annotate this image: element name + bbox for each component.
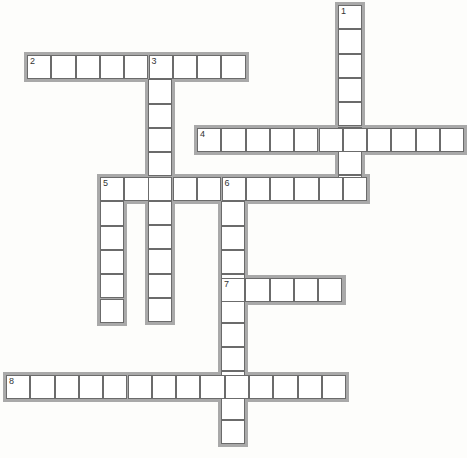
crossword-cell[interactable] (338, 54, 362, 78)
crossword-cell[interactable] (55, 375, 79, 399)
crossword-cell[interactable] (294, 278, 318, 302)
crossword-cell[interactable] (391, 128, 415, 152)
clue-number: 3 (152, 57, 157, 66)
crossword-cell[interactable] (51, 55, 75, 79)
crossword-cell[interactable] (270, 128, 294, 152)
crossword-cell[interactable] (148, 79, 172, 103)
crossword-cell[interactable] (221, 55, 245, 79)
crossword-cell[interactable] (298, 375, 322, 399)
crossword-cell[interactable] (221, 420, 245, 444)
clue-number: 7 (224, 280, 229, 289)
crossword-cell[interactable] (103, 375, 127, 399)
crossword-cell[interactable] (148, 298, 172, 322)
crossword-cell[interactable] (173, 177, 197, 201)
crossword-cell[interactable] (100, 299, 124, 323)
crossword-cell[interactable] (221, 323, 245, 347)
crossword-cell[interactable] (148, 225, 172, 249)
crossword-cell[interactable] (148, 249, 172, 273)
crossword-cell[interactable] (124, 55, 148, 79)
crossword-cell[interactable] (152, 375, 176, 399)
crossword-cell[interactable] (200, 375, 224, 399)
crossword-cell[interactable] (100, 250, 124, 274)
crossword-cell[interactable]: 2 (27, 55, 51, 79)
crossword-cell[interactable] (173, 55, 197, 79)
crossword-cell[interactable] (148, 128, 172, 152)
crossword-cell[interactable]: 6 (222, 177, 246, 201)
crossword-cell[interactable] (246, 177, 270, 201)
crossword-cell[interactable] (100, 55, 124, 79)
clue-number: 2 (30, 57, 35, 66)
crossword-cell[interactable] (338, 102, 362, 126)
crossword-cell[interactable] (148, 104, 172, 128)
crossword-cell[interactable] (270, 177, 294, 201)
crossword-cell[interactable] (221, 226, 245, 250)
crossword-cell[interactable] (221, 396, 245, 420)
crossword-cell[interactable] (319, 177, 343, 201)
crossword-cell[interactable] (128, 375, 152, 399)
crossword-cell[interactable]: 8 (6, 375, 30, 399)
crossword-cell[interactable] (367, 128, 391, 152)
crossword-cell[interactable] (440, 128, 464, 152)
crossword-cell[interactable] (318, 278, 342, 302)
crossword-cell[interactable] (148, 274, 172, 298)
crossword-cell[interactable] (100, 201, 124, 225)
crossword-cell[interactable] (343, 128, 367, 152)
crossword-cell[interactable] (249, 375, 273, 399)
crossword-cell[interactable] (294, 128, 318, 152)
crossword-cell[interactable] (416, 128, 440, 152)
crossword-cell[interactable] (221, 201, 245, 225)
crossword-cell[interactable] (246, 128, 270, 152)
crossword-cell[interactable] (245, 278, 269, 302)
crossword-cell[interactable] (221, 250, 245, 274)
crossword-cell[interactable] (294, 177, 318, 201)
crossword-cell[interactable] (148, 177, 172, 201)
crossword-cell[interactable]: 7 (221, 278, 245, 302)
crossword-cell[interactable] (76, 55, 100, 79)
crossword-cell[interactable]: 1 (338, 5, 362, 29)
crossword-cell[interactable]: 4 (197, 128, 221, 152)
crossword-cell[interactable] (148, 152, 172, 176)
crossword-cell[interactable] (343, 177, 367, 201)
crossword-cell[interactable] (176, 375, 200, 399)
crossword-cell[interactable] (100, 226, 124, 250)
crossword-cell[interactable] (338, 151, 362, 175)
clue-number: 4 (200, 130, 205, 139)
clue-number: 5 (103, 179, 108, 188)
crossword-cell[interactable] (225, 375, 249, 399)
crossword-cell[interactable] (148, 201, 172, 225)
crossword-cell[interactable] (221, 128, 245, 152)
clue-number: 6 (225, 179, 230, 188)
clue-number: 8 (9, 377, 14, 386)
crossword-cell[interactable]: 3 (149, 55, 173, 79)
crossword-cell[interactable] (221, 347, 245, 371)
crossword-cell[interactable] (124, 177, 148, 201)
crossword-cell[interactable] (197, 177, 221, 201)
crossword-cell[interactable]: 5 (100, 177, 124, 201)
clue-number: 1 (341, 7, 346, 16)
crossword-cell[interactable] (100, 274, 124, 298)
crossword-cell[interactable] (270, 278, 294, 302)
crossword-cell[interactable] (79, 375, 103, 399)
crossword-cell[interactable] (273, 375, 297, 399)
crossword-cell[interactable] (30, 375, 54, 399)
crossword-cell[interactable] (322, 375, 346, 399)
crossword-cell[interactable] (338, 29, 362, 53)
crossword-cell[interactable] (319, 128, 343, 152)
crossword-cell[interactable] (197, 55, 221, 79)
crossword-cell[interactable] (338, 78, 362, 102)
